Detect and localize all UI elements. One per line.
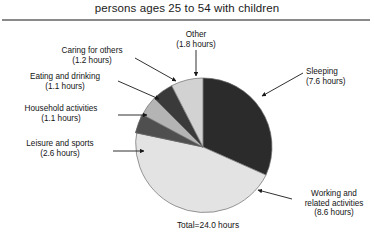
slice-label-working-name-2: related activities [294, 199, 374, 209]
slice-label-other-value: (1.8 hours) [148, 40, 244, 50]
chart-total-label: Total=24.0 hours [148, 221, 268, 231]
slice-label-sleeping-name: Sleeping [306, 67, 374, 77]
slice-label-household-value: (1.1 hours) [6, 114, 116, 124]
leader-line-sleeping [262, 73, 303, 96]
leader-line-eating [118, 81, 159, 99]
slice-label-leisure-value: (2.6 hours) [8, 149, 112, 159]
slice-label-working-value: (8.6 hours) [294, 208, 374, 218]
slice-label-eating-value: (1.1 hours) [12, 82, 118, 92]
slice-label-household-activities: Household activities (1.1 hours) [6, 104, 116, 123]
slice-label-sleeping-value: (7.6 hours) [306, 77, 374, 87]
slice-label-working-name-1: Working and [294, 189, 374, 199]
leader-line-working [258, 190, 292, 199]
slice-label-household-name: Household activities [6, 104, 116, 114]
slice-label-eating-and-drinking: Eating and drinking (1.1 hours) [12, 72, 118, 91]
pie-slices [136, 78, 272, 213]
slice-label-eating-name: Eating and drinking [12, 72, 118, 82]
slice-label-working-and-related-activities: Working and related activities (8.6 hour… [294, 189, 374, 218]
pie-chart-figure: persons ages 25 to 54 with children [0, 0, 374, 239]
slice-label-caring-name: Caring for others [40, 46, 144, 56]
slice-label-caring-value: (1.2 hours) [40, 56, 144, 66]
slice-label-leisure-and-sports: Leisure and sports (2.6 hours) [8, 139, 112, 158]
slice-label-sleeping: Sleeping (7.6 hours) [306, 67, 374, 86]
slice-label-leisure-name: Leisure and sports [8, 139, 112, 149]
slice-label-other: Other (1.8 hours) [148, 30, 244, 49]
slice-label-other-name: Other [148, 30, 244, 40]
slice-label-caring-for-others: Caring for others (1.2 hours) [40, 46, 144, 65]
